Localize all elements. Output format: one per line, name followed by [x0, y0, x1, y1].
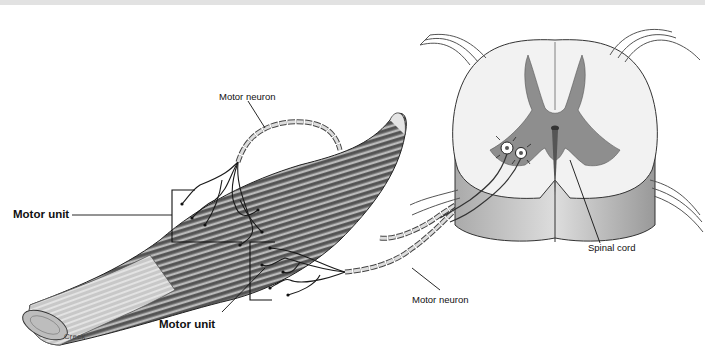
spinal-cord	[410, 29, 703, 242]
motor-unit-diagram	[0, 0, 705, 356]
label-spinal-cord: Spinal cord	[588, 243, 636, 253]
label-motor-neuron-bottom: Motor neuron	[412, 295, 469, 305]
label-motor-unit-upper: Motor unit	[13, 209, 69, 221]
muscle	[18, 113, 406, 346]
label-credit: Creek	[64, 333, 85, 341]
central-canal	[551, 126, 559, 131]
ventral-root-right	[650, 180, 703, 232]
dorsal-root-left	[420, 34, 486, 65]
label-motor-neuron-top: Motor neuron	[219, 92, 276, 102]
label-motor-unit-lower: Motor unit	[159, 319, 215, 331]
